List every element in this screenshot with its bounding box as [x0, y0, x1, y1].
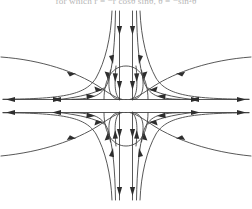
arrow-v-bl-lower — [117, 187, 122, 196]
arrow-h-ll-mid — [52, 110, 61, 115]
horizontal-trajectories — [3, 100, 249, 113]
arrow-h-ll-end — [6, 110, 15, 115]
near-axis-curves — [60, 88, 192, 124]
arrow-v-tr-upper — [130, 26, 135, 35]
arrow-sep-ll-3a — [109, 148, 114, 157]
separatrices-upper-right — [130, 11, 251, 99]
separatrix-ll-2 — [3, 113, 112, 200]
arrow-v-tr-lower — [130, 81, 135, 90]
separatrix-ul-2 — [3, 11, 112, 99]
separatrix-ur-2 — [140, 11, 249, 99]
streamline-group — [1, 11, 251, 200]
phase-portrait-figure: for which ṙ = −r cosθ sinθ, θ̇ = −sin²θ — [0, 0, 252, 209]
arrow-sep-lr-2b — [157, 113, 166, 118]
arrow-v-tl-lower — [117, 81, 122, 90]
arrow-v-br-upper — [130, 129, 135, 138]
arrow-sep-lr-3a — [138, 148, 143, 157]
arrow-sep-ur-2b — [157, 94, 166, 99]
arrow-sep-ul-2b — [86, 94, 95, 99]
arrow-inner-ll — [113, 130, 118, 139]
arrow-v-tl-upper — [117, 26, 122, 35]
arrows-ul — [53, 55, 114, 102]
phase-portrait-canvas — [0, 0, 252, 209]
arrow-v-br-lower — [130, 187, 135, 196]
inner-loops — [104, 66, 148, 146]
arrows-inner — [105, 72, 148, 141]
arrow-h-ur-end — [237, 97, 246, 102]
arrow-inner-ul — [113, 73, 118, 82]
arrow-inner-ur — [134, 73, 139, 82]
arrow-sep-ul-3a — [109, 55, 114, 64]
arrow-h-lr-mid — [191, 110, 200, 115]
separatrices-upper-left — [1, 11, 122, 99]
separatrices-lower-right — [130, 113, 251, 200]
arrow-h-ul-end — [6, 97, 15, 102]
arrow-sep-ll-2b — [86, 113, 95, 118]
arrows-ur — [138, 55, 199, 102]
arrowhead-group — [6, 26, 246, 196]
separatrices-lower-left — [1, 113, 122, 200]
separatrix-lr-2 — [140, 113, 249, 200]
arrow-v-bl-upper — [117, 129, 122, 138]
vertical-trajectories — [120, 11, 133, 200]
arrow-h-lr-end — [237, 110, 246, 115]
arrow-inner-lr — [134, 130, 139, 139]
arrow-sep-ur-3a — [138, 55, 143, 64]
